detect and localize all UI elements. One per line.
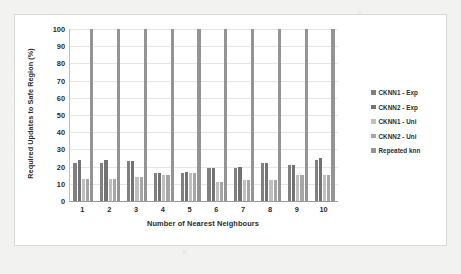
bar xyxy=(269,180,272,201)
bar-group xyxy=(231,29,258,201)
legend-swatch-icon xyxy=(371,148,376,153)
bar xyxy=(193,173,196,201)
bar xyxy=(113,179,116,201)
y-tick-label: 90 xyxy=(57,42,65,51)
bar xyxy=(305,29,308,201)
y-tick-label: 20 xyxy=(57,162,65,171)
bar xyxy=(171,29,174,201)
y-axis-title: Required Updates to Safe Region (%) xyxy=(26,29,35,199)
bar xyxy=(300,175,303,201)
bar xyxy=(292,165,295,201)
legend-swatch-icon xyxy=(371,90,376,95)
y-tick-label: 40 xyxy=(57,128,65,137)
chart-legend: CKNN1 - ExpCKNN2 - ExpCKNN1 - UniCKNN2 -… xyxy=(371,89,443,162)
bar-group xyxy=(311,29,338,201)
bar xyxy=(144,29,147,201)
bar xyxy=(185,172,188,201)
x-tick-label: 10 xyxy=(310,205,337,214)
bar xyxy=(162,175,165,201)
bar xyxy=(109,179,112,201)
bar xyxy=(197,29,200,201)
y-axis-tick-labels: 0102030405060708090100 xyxy=(39,29,65,201)
bar xyxy=(278,29,281,201)
bar xyxy=(315,160,318,201)
bar xyxy=(251,29,254,201)
bar-group xyxy=(284,29,311,201)
bar xyxy=(261,163,264,201)
y-tick-label: 50 xyxy=(57,111,65,120)
bar xyxy=(216,182,219,201)
bar xyxy=(296,175,299,201)
legend-item: CKNN2 - Uni xyxy=(371,133,443,140)
bar xyxy=(224,29,227,201)
bar xyxy=(243,180,246,201)
bar xyxy=(247,180,250,201)
legend-swatch-icon xyxy=(371,119,376,124)
bar xyxy=(131,161,134,201)
bar xyxy=(274,180,277,201)
bar-group xyxy=(258,29,285,201)
legend-label: CKNN1 - Exp xyxy=(379,89,418,96)
legend-label: CKNN2 - Exp xyxy=(379,104,418,111)
bar-group xyxy=(204,29,231,201)
bar xyxy=(100,163,103,201)
bar xyxy=(158,173,161,201)
bar xyxy=(86,179,89,201)
x-tick-label: 2 xyxy=(96,205,123,214)
bar-group xyxy=(97,29,124,201)
bar xyxy=(319,158,322,201)
legend-label: Repeated knn xyxy=(379,147,421,154)
y-tick-label: 80 xyxy=(57,59,65,68)
bar xyxy=(238,167,241,201)
gridline xyxy=(70,201,338,202)
legend-swatch-icon xyxy=(371,105,376,110)
y-tick-label: 70 xyxy=(57,76,65,85)
y-tick-label: 100 xyxy=(53,25,65,34)
bar-group xyxy=(70,29,97,201)
legend-label: CKNN1 - Uni xyxy=(379,118,417,125)
x-tick-label: 6 xyxy=(203,205,230,214)
plot-wrapper: Required Updates to Safe Region (%) 0102… xyxy=(15,15,446,245)
bar-group xyxy=(150,29,177,201)
bar-groups xyxy=(70,29,338,201)
bar xyxy=(104,160,107,201)
x-tick-label: 3 xyxy=(123,205,150,214)
bar xyxy=(135,177,138,201)
bar xyxy=(140,177,143,201)
y-tick-label: 30 xyxy=(57,145,65,154)
bar xyxy=(189,173,192,201)
bar xyxy=(327,175,330,201)
bar xyxy=(331,29,334,201)
x-tick-label: 7 xyxy=(230,205,257,214)
x-tick-label: 1 xyxy=(69,205,96,214)
legend-label: CKNN2 - Uni xyxy=(379,133,417,140)
x-axis-title: Number of Nearest Neighbours xyxy=(69,219,337,228)
chart-figure: Required Updates to Safe Region (%) 0102… xyxy=(14,14,447,246)
x-tick-label: 5 xyxy=(176,205,203,214)
bar xyxy=(154,173,157,201)
bar-group xyxy=(177,29,204,201)
legend-item: CKNN1 - Exp xyxy=(371,89,443,96)
legend-item: CKNN1 - Uni xyxy=(371,118,443,125)
bar xyxy=(181,173,184,201)
bar xyxy=(212,168,215,201)
x-tick-label: 4 xyxy=(149,205,176,214)
legend-item: CKNN2 - Exp xyxy=(371,104,443,111)
bar xyxy=(288,165,291,201)
x-tick-label: 9 xyxy=(283,205,310,214)
legend-swatch-icon xyxy=(371,134,376,139)
bar xyxy=(78,160,81,201)
bar xyxy=(220,182,223,201)
y-tick-label: 10 xyxy=(57,179,65,188)
bar xyxy=(73,163,76,201)
legend-item: Repeated knn xyxy=(371,147,443,154)
bar xyxy=(127,161,130,201)
bar xyxy=(90,29,93,201)
bar xyxy=(234,168,237,201)
plot-area xyxy=(69,29,338,202)
bar xyxy=(166,175,169,201)
bar xyxy=(82,179,85,201)
bar xyxy=(323,175,326,201)
bar xyxy=(265,163,268,201)
x-tick-label: 8 xyxy=(257,205,284,214)
